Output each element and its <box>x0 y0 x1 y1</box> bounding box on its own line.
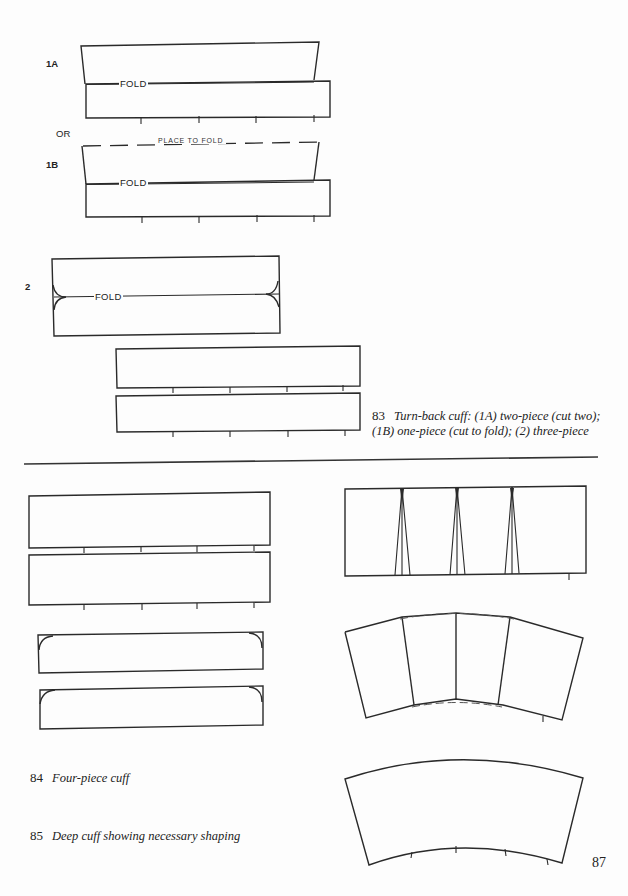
book-page: 1A OR 1B 2 FOLD FOLD PLACE TO FOLD FOLD … <box>0 0 628 896</box>
label-2: 2 <box>25 281 30 292</box>
caption-83: 83Turn-back cuff: (1A) two-piece (cut tw… <box>372 408 601 439</box>
caption-85-number: 85 <box>30 828 43 843</box>
label-1a: 1A <box>46 58 58 69</box>
caption-84: 84Four-piece cuff <box>30 770 129 786</box>
fold-label-1b: FOLD <box>119 177 148 188</box>
caption-83-line1: Turn-back cuff: (1A) two-piece (cut two)… <box>394 409 601 423</box>
diagram-84-fan <box>345 613 583 722</box>
label-or: OR <box>56 128 70 139</box>
diagram-84-darted <box>345 486 586 580</box>
diagram-84-rounded-bands <box>38 632 263 729</box>
fold-label-2: FOLD <box>94 291 123 302</box>
caption-84-number: 84 <box>30 770 43 785</box>
caption-85: 85Deep cuff showing necessary shaping <box>30 828 240 844</box>
diagram-85-deep-cuff <box>345 760 583 865</box>
fold-label-1a: FOLD <box>119 78 148 89</box>
place-to-fold-label: PLACE TO FOLD <box>155 137 226 144</box>
section-divider <box>24 457 598 464</box>
diagram-84-bands <box>29 492 270 610</box>
diagram-2 <box>52 256 280 336</box>
caption-84-text: Four-piece cuff <box>52 771 129 785</box>
diagram-2-bands <box>116 346 360 437</box>
label-1b: 1B <box>46 159 58 170</box>
pattern-diagrams <box>0 0 628 896</box>
page-number: 87 <box>592 855 606 871</box>
caption-83-line2: (1B) one-piece (cut to fold); (2) three-… <box>372 424 589 438</box>
caption-85-text: Deep cuff showing necessary shaping <box>52 829 240 843</box>
caption-83-number: 83 <box>372 408 385 423</box>
